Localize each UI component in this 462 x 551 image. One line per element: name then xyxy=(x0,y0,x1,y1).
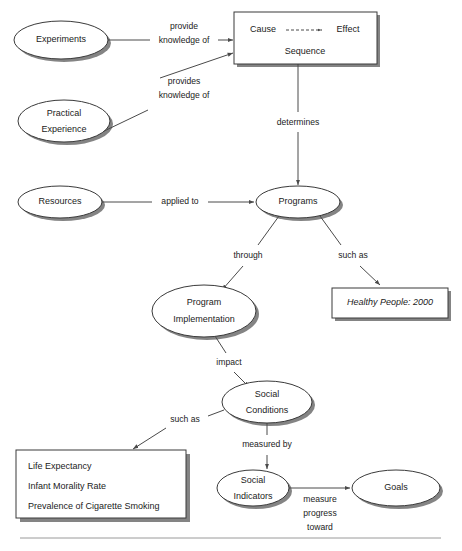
edge-label-measure-progress-toward-line1: measure xyxy=(303,494,337,504)
node-social-indicators[interactable]: Social Indicators xyxy=(217,470,289,506)
programs-label: Programs xyxy=(278,196,318,206)
node-cause-effect-sequence-box[interactable]: Cause Effect Sequence xyxy=(234,12,377,64)
edge-label-measure-progress-toward-line2: progress xyxy=(303,508,336,518)
node-social-conditions[interactable]: Social Conditions xyxy=(222,381,312,423)
edge-conditions-to-list-upper xyxy=(208,410,224,416)
concept-map-canvas: Experiments Practical Experience Resourc… xyxy=(0,0,462,551)
healthy-people-label: Healthy People: 2000 xyxy=(347,297,433,307)
edge-programs-to-implementation-head xyxy=(222,266,243,290)
concept-map-diagram: Experiments Practical Experience Resourc… xyxy=(0,0,462,551)
edge-programs-to-implementation-upper xyxy=(258,216,279,245)
node-social-indicator-examples-box[interactable]: Life Expectancy Infant Morality Rate Pre… xyxy=(16,450,186,518)
edge-label-measure-progress-toward-line3: toward xyxy=(307,522,333,532)
edge-practical-to-cause-head xyxy=(160,53,233,78)
indicator-item-cigarette-smoking: Prevalence of Cigarette Smoking xyxy=(28,501,160,511)
social-conditions-label-line2: Conditions xyxy=(246,405,289,415)
practical-experience-label-line2: Experience xyxy=(41,124,86,134)
node-programs[interactable]: Programs xyxy=(256,186,340,218)
edge-label-such-as-healthy-people: such as xyxy=(338,250,368,260)
practical-experience-ellipse[interactable] xyxy=(18,100,110,142)
program-implementation-label-line1: Program xyxy=(187,297,222,307)
social-indicators-label-line1: Social xyxy=(241,475,266,485)
edge-label-provides-knowledge-of-line2: knowledge of xyxy=(159,90,210,100)
edges-layer xyxy=(100,40,380,488)
node-practical-experience[interactable]: Practical Experience xyxy=(18,100,110,142)
edge-label-measured-by: measured by xyxy=(242,439,292,449)
cause-label: Cause xyxy=(250,24,276,34)
node-experiments[interactable]: Experiments xyxy=(14,21,108,59)
program-implementation-label-line2: Implementation xyxy=(173,314,235,324)
social-conditions-label-line1: Social xyxy=(255,389,280,399)
indicator-item-life-expectancy: Life Expectancy xyxy=(28,461,92,471)
edge-label-determines: determines xyxy=(277,117,320,127)
edge-label-impact: impact xyxy=(216,357,242,367)
edge-labels-layer: provide knowledge of provides knowledge … xyxy=(159,21,368,532)
edge-label-applied-to: applied to xyxy=(161,196,198,206)
edge-conditions-to-list-head xyxy=(133,428,166,449)
resources-label: Resources xyxy=(38,196,82,206)
edge-label-such-as-indicators-list: such as xyxy=(170,414,200,424)
goals-label: Goals xyxy=(384,482,408,492)
experiments-label: Experiments xyxy=(36,34,87,44)
edge-programs-to-healthy-head xyxy=(360,266,380,285)
social-conditions-ellipse[interactable] xyxy=(222,381,312,423)
node-program-implementation[interactable]: Program Implementation xyxy=(152,285,256,337)
edge-programs-to-healthy-upper xyxy=(320,216,341,245)
node-shadows xyxy=(17,15,451,522)
social-indicators-label-line2: Indicators xyxy=(233,491,273,501)
indicator-item-infant-morality-rate: Infant Morality Rate xyxy=(28,481,106,491)
edge-label-provide-knowledge-of-line1: provide xyxy=(170,21,198,31)
program-implementation-ellipse[interactable] xyxy=(152,285,256,337)
sequence-label: Sequence xyxy=(285,46,326,56)
node-goals[interactable]: Goals xyxy=(352,470,440,506)
node-resources[interactable]: Resources xyxy=(18,186,102,218)
edge-label-through: through xyxy=(233,250,262,260)
effect-label: Effect xyxy=(337,24,360,34)
practical-experience-label-line1: Practical xyxy=(47,108,82,118)
edge-label-provide-knowledge-of-line2: knowledge of xyxy=(159,35,210,45)
node-healthy-people-box[interactable]: Healthy People: 2000 xyxy=(332,288,448,318)
edge-label-provides-knowledge-of-line1: provides xyxy=(168,76,200,86)
